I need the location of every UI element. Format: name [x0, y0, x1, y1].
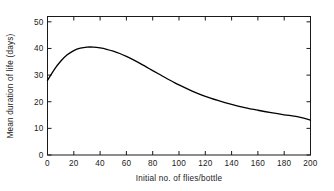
figure-container: 02040608010012014016018020001020304050 I… [0, 0, 334, 191]
series-layer [48, 47, 311, 120]
y-tick-label-50: 50 [34, 18, 44, 27]
axes-box [48, 17, 311, 156]
y-tick-label-40: 40 [34, 44, 44, 53]
x-tick-label-20: 20 [69, 159, 79, 168]
ticks-layer [48, 17, 311, 156]
y-tick-label-10: 10 [34, 124, 44, 133]
x-tick-label-120: 120 [198, 159, 213, 168]
line-chart: 02040608010012014016018020001020304050 I… [0, 0, 334, 191]
x-tick-label-180: 180 [277, 159, 292, 168]
y-tick-label-0: 0 [39, 151, 44, 160]
x-tick-label-100: 100 [172, 159, 187, 168]
x-tick-label-0: 0 [45, 159, 50, 168]
x-tick-label-80: 80 [148, 159, 158, 168]
x-tick-label-140: 140 [224, 159, 239, 168]
x-tick-label-40: 40 [95, 159, 105, 168]
x-axis-title: Initial no. of flies/bottle [136, 174, 223, 183]
y-tick-label-20: 20 [34, 98, 44, 107]
x-tick-label-160: 160 [251, 159, 266, 168]
tick-labels-layer: 02040608010012014016018020001020304050 [34, 18, 318, 168]
plot-frame [48, 17, 311, 156]
y-axis-title: Mean duration of life (days) [6, 34, 15, 139]
x-tick-label-60: 60 [122, 159, 132, 168]
y-tick-label-30: 30 [34, 71, 44, 80]
data-curve-mean-duration-of-life [48, 47, 311, 120]
x-tick-label-200: 200 [303, 159, 318, 168]
